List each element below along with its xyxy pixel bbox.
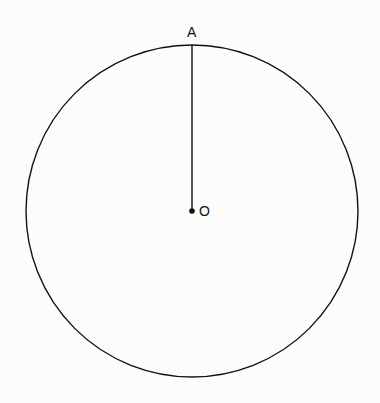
geometry-diagram: A O bbox=[0, 0, 380, 403]
label-O: O bbox=[199, 203, 210, 219]
center-point-dot bbox=[189, 208, 195, 214]
label-A: A bbox=[187, 24, 197, 40]
